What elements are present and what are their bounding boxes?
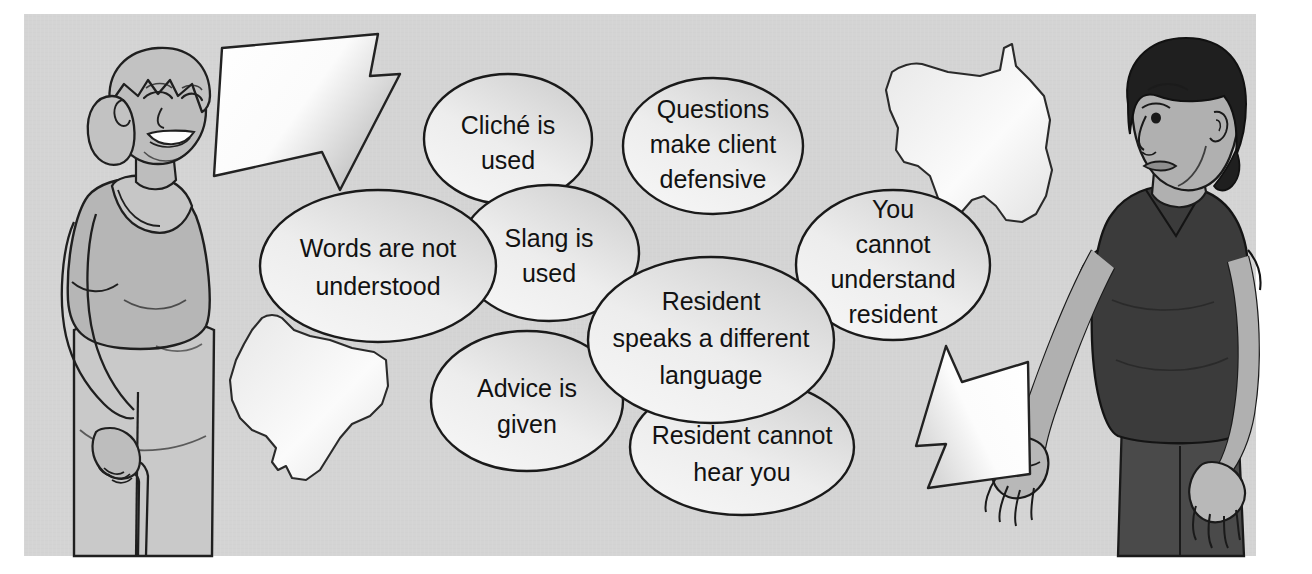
bubble-line: cannot — [855, 230, 930, 258]
bubble-line: hear you — [693, 458, 790, 486]
bubble-line: understood — [315, 272, 440, 300]
bubble-line: defensive — [659, 165, 766, 193]
bubble-line: Resident — [662, 287, 761, 315]
bubble-line: used — [481, 146, 535, 174]
bubble-line: used — [522, 259, 576, 287]
bubble-line: given — [497, 410, 557, 438]
communication-barriers-illustration: Questions make client defensive Cliché i… — [0, 0, 1312, 574]
bubble-line: Resident cannot — [652, 421, 833, 449]
bubble-line: Advice is — [477, 374, 577, 402]
bubble-line: You — [872, 195, 914, 223]
bubble-different-language: Resident speaks a different language — [588, 257, 834, 423]
bubble-questions-defensive: Questions make client defensive — [623, 78, 803, 214]
bubble-cliche: Cliché is used — [424, 74, 592, 204]
bubble-line: speaks a different — [613, 324, 810, 352]
bubble-line: resident — [849, 300, 938, 328]
bubble-line: Words are not — [300, 234, 457, 262]
bubble-line: Questions — [657, 95, 770, 123]
bubble-line: language — [660, 361, 763, 389]
bubble-line: Slang is — [505, 224, 594, 252]
bubble-line: understand — [830, 265, 955, 293]
illustration-canvas: Questions make client defensive Cliché i… — [0, 0, 1312, 574]
bubble-words-not-understood: Words are not understood — [260, 190, 496, 342]
bubble-line: make client — [650, 130, 776, 158]
bubble-line: Cliché is — [461, 111, 555, 139]
